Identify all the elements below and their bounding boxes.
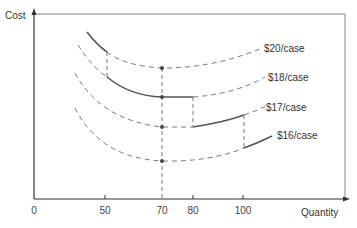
curve-17-dashed-left bbox=[75, 73, 193, 127]
curve-label-17: $17/case bbox=[266, 103, 307, 113]
y-axis-label: Cost bbox=[5, 11, 26, 21]
point-18-at-70 bbox=[160, 95, 164, 99]
curve-20-dashed bbox=[107, 48, 262, 68]
curve-18-dashed-right bbox=[193, 77, 265, 97]
chart-canvas bbox=[0, 0, 357, 228]
curve-17-solid bbox=[193, 115, 244, 127]
point-17-at-70 bbox=[160, 125, 164, 129]
curve-label-16: $16/case bbox=[277, 131, 318, 141]
point-16-at-70 bbox=[160, 159, 164, 163]
x-axis-arrow-icon bbox=[343, 197, 350, 202]
tick-label-80: 80 bbox=[187, 206, 198, 216]
curve-16-dashed bbox=[75, 108, 244, 161]
tick-label-100: 100 bbox=[235, 206, 252, 216]
curve-18-dashed-left bbox=[78, 45, 107, 77]
tick-label-70: 70 bbox=[156, 206, 167, 216]
x-axis-label: Quantity bbox=[301, 208, 338, 218]
curve-17-dashed-right bbox=[244, 106, 266, 115]
point-20-at-70 bbox=[160, 66, 164, 70]
tick-label-50: 50 bbox=[99, 206, 110, 216]
curve-label-18: $18/case bbox=[268, 73, 309, 83]
curve-label-20: $20/case bbox=[264, 44, 305, 54]
curve-20-solid bbox=[87, 32, 107, 52]
curve-18-solid bbox=[107, 77, 193, 97]
y-axis-arrow-icon bbox=[32, 8, 37, 15]
price-break-chart: Cost Quantity 0 50 70 80 100 $20/case $1… bbox=[0, 0, 357, 228]
tick-label-0: 0 bbox=[31, 206, 37, 216]
curve-16-solid bbox=[244, 136, 272, 148]
